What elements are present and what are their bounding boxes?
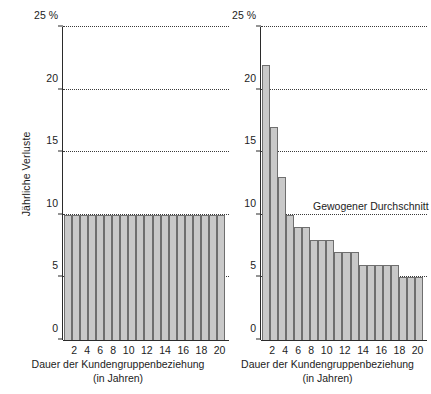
bar bbox=[72, 215, 80, 340]
ytick-label-15: 15 bbox=[46, 134, 58, 146]
ytick-dash-20 bbox=[256, 88, 261, 89]
ytick-label-0: 0 bbox=[250, 322, 256, 334]
bar bbox=[302, 227, 310, 340]
bar bbox=[128, 215, 136, 340]
bar bbox=[342, 252, 350, 340]
bar bbox=[262, 65, 270, 340]
x-axis-title-left-line2: (in Jahren) bbox=[2, 372, 234, 386]
ytick-dash-0 bbox=[58, 339, 63, 340]
x-axis-title-right: Dauer der Kundengruppenbeziehung (in Jah… bbox=[228, 358, 427, 385]
ytick-dash-15 bbox=[58, 151, 63, 152]
bar bbox=[375, 265, 383, 340]
ytick-label-20: 20 bbox=[244, 72, 256, 84]
bar bbox=[294, 227, 302, 340]
ytick-dash-15 bbox=[256, 151, 261, 152]
ytick-dash-5 bbox=[58, 276, 63, 277]
ytick-label-15: 15 bbox=[244, 134, 256, 146]
x-axis-title-right-line1: Dauer der Kundengruppenbeziehung bbox=[228, 358, 427, 372]
xtick-label: 14 bbox=[357, 344, 369, 356]
ytick-dash-5 bbox=[256, 276, 261, 277]
bar bbox=[104, 215, 112, 340]
ytick-label-0: 0 bbox=[52, 322, 58, 334]
bar bbox=[318, 240, 326, 340]
bar bbox=[391, 265, 399, 340]
bar bbox=[88, 215, 96, 340]
xtick-label: 8 bbox=[109, 344, 115, 356]
bar bbox=[286, 215, 294, 340]
x-axis-ticks-right: 2468101214161820 bbox=[262, 344, 423, 356]
bar bbox=[310, 240, 318, 340]
xtick-label: 16 bbox=[177, 344, 189, 356]
bar bbox=[136, 215, 144, 340]
bar bbox=[217, 215, 225, 340]
bar bbox=[120, 215, 128, 340]
bar bbox=[399, 277, 407, 340]
ytick-label-20: 20 bbox=[46, 72, 58, 84]
xtick-label: 4 bbox=[83, 344, 89, 356]
xtick-label: 18 bbox=[195, 344, 207, 356]
chart-panel-right: 0 5 10 15 20 25 % Gewogener Durchschnitt… bbox=[232, 0, 431, 394]
ytick-label-25: 25 % bbox=[34, 9, 58, 21]
x-axis-title-left: Dauer der Kundengruppenbeziehung (in Jah… bbox=[2, 358, 234, 385]
ytick-dash-10 bbox=[58, 213, 63, 214]
xtick-label: 20 bbox=[213, 344, 225, 356]
bar-series-left bbox=[64, 27, 225, 340]
xtick-label: 12 bbox=[339, 344, 351, 356]
bar bbox=[161, 215, 169, 340]
xtick-label: 4 bbox=[281, 344, 287, 356]
ytick-label-10: 10 bbox=[46, 197, 58, 209]
bar bbox=[359, 265, 367, 340]
weighted-average-annotation: Gewogener Durchschnitt bbox=[313, 200, 429, 212]
xtick-label: 12 bbox=[141, 344, 153, 356]
bar bbox=[326, 240, 334, 340]
ytick-label-10: 10 bbox=[244, 197, 256, 209]
ytick-dash-25 bbox=[58, 26, 63, 27]
plot-area-right: 0 5 10 15 20 25 % Gewogener Durchschnitt… bbox=[260, 27, 423, 340]
bar bbox=[96, 215, 104, 340]
ytick-label-25: 25 % bbox=[232, 9, 256, 21]
bar bbox=[201, 215, 209, 340]
bar bbox=[334, 252, 342, 340]
ytick-dash-20 bbox=[58, 88, 63, 89]
bar bbox=[270, 127, 278, 340]
bar bbox=[112, 215, 120, 340]
bar bbox=[407, 277, 415, 340]
figure: Jährliche Verluste 0 5 10 15 20 25 % bbox=[0, 0, 431, 394]
xtick-label: 2 bbox=[70, 344, 76, 356]
ytick-label-5: 5 bbox=[250, 259, 256, 271]
bar bbox=[193, 215, 201, 340]
bar bbox=[383, 265, 391, 340]
xtick-label: 16 bbox=[375, 344, 387, 356]
xtick-label: 2 bbox=[268, 344, 274, 356]
xtick-label: 18 bbox=[393, 344, 405, 356]
bar bbox=[278, 177, 286, 340]
xtick-label: 6 bbox=[294, 344, 300, 356]
bar bbox=[177, 215, 185, 340]
ytick-dash-10 bbox=[256, 213, 261, 214]
x-axis-ticks-left: 2468101214161820 bbox=[64, 344, 225, 356]
bar-series-right bbox=[262, 27, 423, 340]
x-axis-title-left-line1: Dauer der Kundengruppenbeziehung bbox=[2, 358, 234, 372]
bar bbox=[64, 215, 72, 340]
ytick-dash-25 bbox=[256, 26, 261, 27]
xtick-label: 10 bbox=[320, 344, 332, 356]
bar bbox=[367, 265, 375, 340]
xtick-label: 20 bbox=[411, 344, 423, 356]
chart-panel-left: 0 5 10 15 20 25 % 2468101214161820 Dauer… bbox=[0, 0, 232, 394]
bar bbox=[209, 215, 217, 340]
bar bbox=[415, 277, 423, 340]
ytick-label-5: 5 bbox=[52, 259, 58, 271]
xtick-label: 14 bbox=[159, 344, 171, 356]
bar bbox=[144, 215, 152, 340]
bar bbox=[185, 215, 193, 340]
plot-area-left: 0 5 10 15 20 25 % 2468101214161820 bbox=[62, 27, 225, 340]
bar bbox=[153, 215, 161, 340]
ytick-dash-0 bbox=[256, 339, 261, 340]
bar bbox=[351, 252, 359, 340]
bar bbox=[169, 215, 177, 340]
xtick-label: 8 bbox=[307, 344, 313, 356]
bar bbox=[80, 215, 88, 340]
x-axis-title-right-line2: (in Jahren) bbox=[228, 372, 427, 386]
xtick-label: 10 bbox=[122, 344, 134, 356]
xtick-label: 6 bbox=[96, 344, 102, 356]
